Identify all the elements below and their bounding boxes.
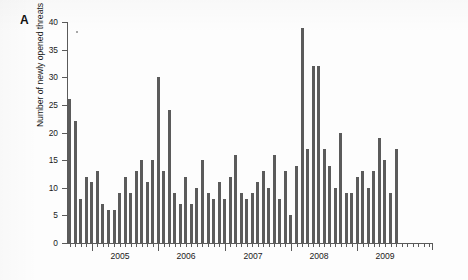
y-tick-label: 35 [18, 45, 58, 55]
bar [85, 177, 88, 243]
x-tick-minor [236, 244, 237, 247]
bar [251, 193, 254, 243]
bar [345, 193, 348, 243]
bar [267, 188, 270, 243]
x-tick-major [158, 244, 159, 251]
x-tick-minor [341, 244, 342, 247]
y-tick-label: 30 [18, 72, 58, 82]
bar [90, 182, 93, 243]
x-tick-minor [319, 244, 320, 247]
bar [350, 193, 353, 243]
x-tick-minor [191, 244, 192, 247]
bar [273, 155, 276, 243]
bar [383, 160, 386, 243]
bar [306, 149, 309, 243]
x-tick-minor [202, 244, 203, 247]
x-tick-minor [208, 244, 209, 247]
bar [378, 138, 381, 243]
y-tick-label: 25 [18, 100, 58, 110]
bar [339, 133, 342, 244]
bar [140, 160, 143, 243]
bar [146, 182, 149, 243]
bar [124, 177, 127, 243]
x-axis-end-tick [432, 243, 433, 250]
bar [218, 182, 221, 243]
bar [212, 199, 215, 243]
y-tick-label: 5 [18, 210, 58, 220]
x-tick-minor [131, 244, 132, 247]
figure-panel-a: A Number of newly opened threats 0510152… [0, 0, 468, 280]
x-tick-minor [125, 244, 126, 247]
bar [395, 149, 398, 243]
bar [367, 188, 370, 243]
x-tick-minor [70, 244, 71, 247]
x-tick-minor [330, 244, 331, 247]
x-axis-year-label: 2006 [156, 251, 216, 261]
x-tick-minor [308, 244, 309, 247]
x-tick-minor [335, 244, 336, 247]
bar [317, 66, 320, 243]
bar [295, 166, 298, 243]
x-tick-minor [302, 244, 303, 247]
x-tick-minor [368, 244, 369, 247]
bar [240, 193, 243, 243]
bar [323, 149, 326, 243]
bar [195, 188, 198, 243]
x-tick-minor [263, 244, 264, 247]
x-tick-minor [197, 244, 198, 247]
bar [372, 171, 375, 243]
x-tick-minor [186, 244, 187, 247]
bar [223, 199, 226, 243]
x-tick-minor [352, 244, 353, 247]
x-tick-minor [396, 244, 397, 247]
x-tick-minor [363, 244, 364, 247]
x-tick-minor [114, 244, 115, 247]
x-tick-minor [86, 244, 87, 247]
x-tick-minor [274, 244, 275, 247]
x-tick-minor [247, 244, 248, 247]
x-tick-minor [407, 244, 408, 247]
x-tick-minor [402, 244, 403, 247]
bar [190, 204, 193, 243]
x-tick-minor [108, 244, 109, 247]
x-tick-minor [297, 244, 298, 247]
x-tick-minor [424, 244, 425, 247]
x-tick-major [225, 244, 226, 251]
bar [312, 66, 315, 243]
x-tick-minor [258, 244, 259, 247]
bar [229, 177, 232, 243]
bar [107, 210, 110, 243]
y-tick-label: 0 [18, 238, 58, 248]
x-tick-major [291, 244, 292, 251]
bar [184, 177, 187, 243]
x-tick-minor [81, 244, 82, 247]
x-tick-minor [379, 244, 380, 247]
bar [245, 199, 248, 243]
x-tick-minor [103, 244, 104, 247]
bar [334, 188, 337, 243]
x-tick-minor [313, 244, 314, 247]
x-tick-minor [97, 244, 98, 247]
x-tick-minor [269, 244, 270, 247]
x-tick-minor [324, 244, 325, 247]
bar [179, 204, 182, 243]
bar [135, 171, 138, 243]
bar [361, 171, 364, 243]
bar [289, 215, 292, 243]
x-tick-minor [346, 244, 347, 247]
x-tick-minor [413, 244, 414, 247]
bar [389, 193, 392, 243]
bar [278, 199, 281, 243]
x-tick-minor [120, 244, 121, 247]
x-tick-minor [219, 244, 220, 247]
x-tick-minor [214, 244, 215, 247]
bar [173, 193, 176, 243]
x-tick-minor [175, 244, 176, 247]
y-tick-mark [62, 243, 67, 244]
bar [168, 110, 171, 243]
x-tick-minor [230, 244, 231, 247]
x-tick-minor [241, 244, 242, 247]
x-tick-minor [385, 244, 386, 247]
x-tick-minor [280, 244, 281, 247]
bar [68, 99, 71, 243]
